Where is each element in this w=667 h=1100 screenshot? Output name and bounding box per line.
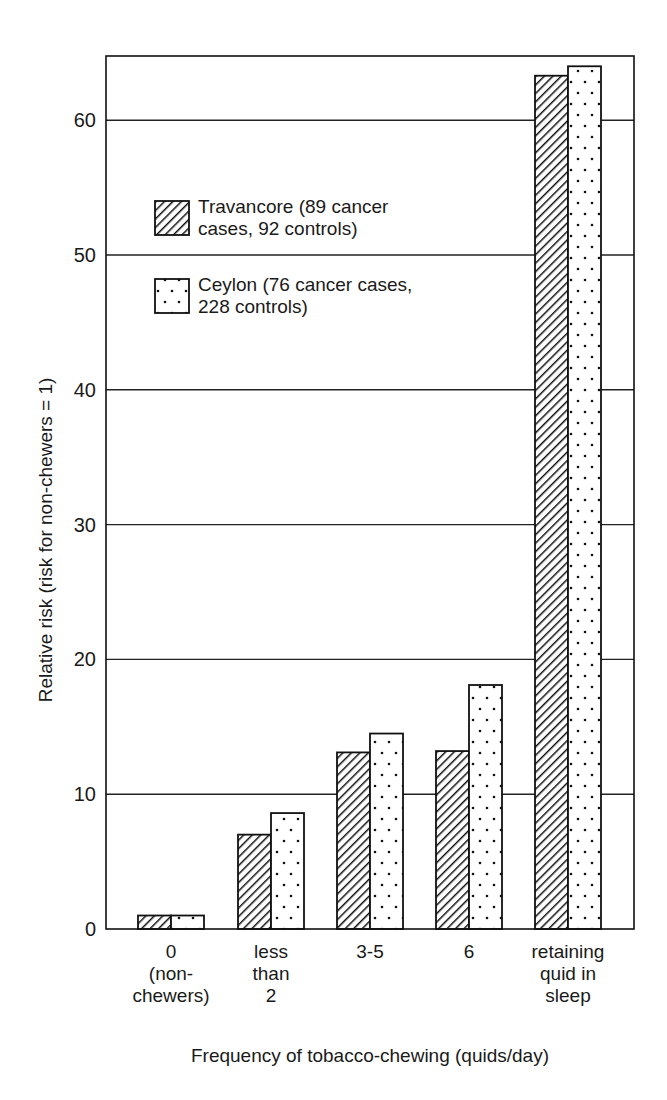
legend-swatch xyxy=(155,201,189,235)
bar-ceylon xyxy=(271,813,304,929)
y-tick-label: 10 xyxy=(74,783,96,805)
legend-label: Travancore (89 cancer xyxy=(198,196,389,217)
bar-travancore xyxy=(337,752,370,929)
bar-chart: 0102030405060 0(non-chewers)lessthan23-5… xyxy=(0,0,667,1100)
legend: Travancore (89 cancercases, 92 controls)… xyxy=(155,196,412,317)
bar-travancore xyxy=(436,751,469,929)
x-category-label: 6 xyxy=(464,941,475,962)
y-axis-label: Relative risk (risk for non-chewers = 1) xyxy=(35,378,56,703)
y-tick-label: 40 xyxy=(74,379,96,401)
x-category-label: chewers) xyxy=(132,985,209,1006)
legend-item-ceylon: Ceylon (76 cancer cases,228 controls) xyxy=(155,274,412,317)
y-tick-label: 60 xyxy=(74,109,96,131)
x-category-label: than xyxy=(253,963,290,984)
y-axis-ticks: 0102030405060 xyxy=(74,109,96,940)
y-tick-label: 0 xyxy=(85,918,96,940)
x-category-label: 2 xyxy=(266,985,277,1006)
bar-travancore xyxy=(238,835,271,929)
x-category-label: (non- xyxy=(149,963,193,984)
x-axis-categories: 0(non-chewers)lessthan23-56retainingquid… xyxy=(132,941,604,1006)
bar-ceylon xyxy=(568,66,601,929)
legend-label: 228 controls) xyxy=(198,296,308,317)
x-category-label: sleep xyxy=(545,985,590,1006)
bar-travancore xyxy=(138,916,171,929)
y-tick-label: 20 xyxy=(74,648,96,670)
x-category-label: retaining xyxy=(532,941,605,962)
legend-label: cases, 92 controls) xyxy=(198,218,357,239)
bar-ceylon xyxy=(171,916,204,929)
y-tick-label: 50 xyxy=(74,244,96,266)
x-axis-label: Frequency of tobacco-chewing (quids/day) xyxy=(191,1045,549,1066)
bar-ceylon xyxy=(469,685,502,929)
bar-travancore xyxy=(535,76,568,929)
x-category-label: less xyxy=(254,941,288,962)
bar-ceylon xyxy=(370,734,403,929)
x-category-label: 3-5 xyxy=(356,941,383,962)
legend-swatch xyxy=(155,279,189,313)
x-category-label: quid in xyxy=(540,963,596,984)
legend-label: Ceylon (76 cancer cases, xyxy=(198,274,412,295)
x-category-label: 0 xyxy=(166,941,177,962)
y-tick-label: 30 xyxy=(74,514,96,536)
legend-item-travancore: Travancore (89 cancercases, 92 controls) xyxy=(155,196,389,239)
